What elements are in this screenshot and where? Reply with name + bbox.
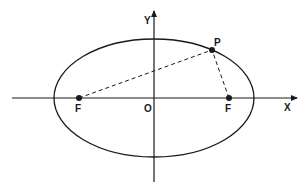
y-axis-label: Y [144, 15, 151, 26]
ellipse-diagram: Y X O F F P [0, 0, 306, 193]
focus-right-label: F [225, 103, 231, 114]
focal-radius-left [79, 50, 212, 98]
x-axis-label: X [284, 102, 291, 113]
focus-left-point [76, 95, 82, 101]
origin-label: O [144, 103, 152, 114]
focus-left-label: F [75, 103, 81, 114]
point-p-label: P [214, 37, 221, 48]
focus-right-point [226, 95, 232, 101]
